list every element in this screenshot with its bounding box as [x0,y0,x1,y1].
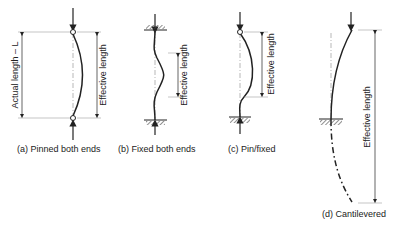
buckled-column [73,34,83,116]
caption-d: (d) Cantilevered [322,209,386,219]
pin-top-icon [71,30,76,35]
buckling-diagram: Actual length – L Effective length (a) P… [0,0,400,227]
caption-a: (a) Pinned both ends [17,144,101,154]
panel-cantilevered: Effective length (d) Cantilevered [319,12,386,219]
effective-length-label: Effective length [362,86,372,147]
effective-length-label: Effective length [98,44,108,105]
pin-top-icon [238,30,243,35]
panel-pinned-both-ends: Actual length – L Effective length (a) P… [10,8,108,154]
actual-length-label: Actual length – L [10,41,20,108]
pin-bottom-icon [71,116,76,121]
buckled-column [331,30,352,120]
caption-b: (b) Fixed both ends [118,144,196,154]
buckled-column [154,30,164,120]
caption-c: (c) Pin/fixed [228,144,276,154]
fixed-support-top-icon [146,25,165,29]
buckled-column [240,33,253,117]
panel-fixed-both-ends: Effective length (b) Fixed both ends [118,14,196,154]
effective-length-label: Effective length [266,33,276,94]
effective-length-label: Effective length [179,44,189,105]
panel-pin-fixed: Effective length (c) Pin/fixed [228,12,276,154]
extended-buckled-curve [331,120,352,202]
